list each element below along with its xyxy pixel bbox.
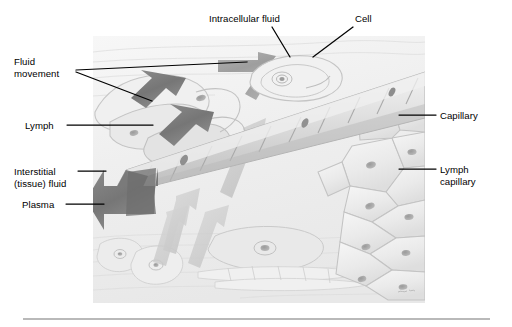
label-lymph-capillary: Lymph capillary (440, 164, 476, 187)
label-line: movement (14, 68, 59, 80)
label-fluid-movement: Fluid movement (14, 56, 59, 79)
label-line: Intracellular fluid (209, 13, 280, 25)
illustration-plate (86, 36, 425, 303)
label-line: capillary (440, 176, 476, 188)
label-intracellular-fluid: Intracellular fluid (209, 13, 280, 25)
label-plasma: Plasma (22, 199, 54, 211)
cell-nucleus (279, 77, 284, 81)
label-cell: Cell (355, 13, 372, 25)
label-line: Interstitial (14, 166, 66, 178)
caption-rule (23, 318, 490, 320)
label-interstitial-tissue-fluid: Interstitial (tissue) fluid (14, 166, 66, 189)
label-lymph: Lymph (25, 120, 54, 132)
figure-root: Intracellular fluid Cell Fluid movement … (0, 0, 512, 327)
label-line: Plasma (22, 199, 54, 211)
label-line: (tissue) fluid (14, 178, 66, 190)
label-line: Cell (355, 13, 372, 25)
label-line: Capillary (440, 110, 478, 122)
anatomy-illustration (0, 0, 512, 327)
label-line: Fluid (14, 56, 59, 68)
label-capillary: Capillary (440, 110, 478, 122)
label-line: Lymph (440, 164, 476, 176)
label-line: Lymph (25, 120, 54, 132)
